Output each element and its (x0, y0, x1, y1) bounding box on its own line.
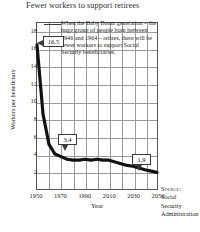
annotation-leader-line (44, 24, 61, 25)
source-attribution: Source: Social Security Administration (161, 185, 200, 219)
x-tick-label-1950: 1950 (23, 192, 49, 199)
y-tick-label-6: 6 (19, 134, 37, 141)
y-tick-label-4: 4 (19, 151, 37, 158)
x-tick-label-2030: 2030 (121, 192, 147, 199)
x-tick-label-2010: 2010 (96, 192, 122, 199)
callout-2050: 1.9 (132, 154, 151, 165)
callout-tail-2050 (136, 165, 142, 171)
callout-1970: 3.4 (58, 134, 77, 145)
y-tick-label-16: 16 (19, 45, 37, 52)
chart-title: Fewer workers to support retirees (26, 1, 139, 11)
y-axis-title: Workers per beneficiary (9, 54, 16, 146)
y-tick-label-2: 2 (19, 169, 37, 176)
x-tick-label-1990: 1990 (72, 192, 98, 199)
y-tick-label-18: 18 (19, 28, 37, 35)
y-tick-label-8: 8 (19, 116, 37, 123)
source-line-2: Security (161, 202, 200, 210)
x-axis-title: Year (36, 202, 158, 210)
source-line-3: Administration (161, 210, 200, 218)
x-tick-label-1970: 1970 (47, 192, 73, 199)
source-label: Source: (161, 185, 181, 192)
callout-tail-1970 (62, 145, 68, 151)
source-line-1: Social (161, 193, 200, 201)
chart-figure: Fewer workers to support retirees 181614… (0, 0, 200, 232)
y-tick-label-12: 12 (19, 81, 37, 88)
y-tick-label-14: 14 (19, 63, 37, 70)
annotation-note: When the Baby Boom generation – the huge… (61, 20, 157, 56)
y-tick-label-10: 10 (19, 98, 37, 105)
callout-1950: 16.5 (43, 36, 64, 47)
